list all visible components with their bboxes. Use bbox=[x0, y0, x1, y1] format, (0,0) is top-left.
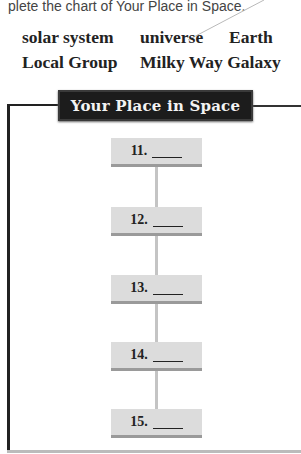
answer-blank[interactable] bbox=[153, 416, 183, 429]
answer-blank[interactable] bbox=[152, 145, 182, 158]
chart-node-15: 15. bbox=[111, 409, 202, 438]
node-number: 12. bbox=[130, 212, 148, 228]
word-bank-item: Milky Way Galaxy bbox=[140, 54, 281, 72]
answer-blank[interactable] bbox=[153, 349, 183, 362]
chart-node-11: 11. bbox=[111, 138, 202, 167]
connector-line bbox=[155, 371, 158, 409]
connector-line bbox=[155, 167, 158, 207]
connector-line bbox=[155, 236, 158, 276]
frame-bottom-border bbox=[7, 450, 301, 453]
frame-left-border bbox=[7, 104, 10, 453]
chart-title: Your Place in Space bbox=[58, 90, 253, 121]
chart-node-14: 14. bbox=[111, 342, 202, 371]
word-bank-item: universe bbox=[140, 29, 203, 47]
node-number: 15. bbox=[130, 414, 148, 430]
word-bank-item: Local Group bbox=[22, 54, 117, 72]
frame-top-left-border bbox=[7, 104, 59, 106]
chart-node-12: 12. bbox=[111, 207, 202, 236]
answer-blank[interactable] bbox=[153, 214, 183, 227]
answer-blank[interactable] bbox=[153, 282, 183, 295]
connector-line bbox=[155, 304, 158, 342]
node-number: 13. bbox=[130, 280, 148, 296]
chart-node-13: 13. bbox=[111, 275, 202, 304]
word-bank-item: solar system bbox=[22, 29, 114, 47]
word-bank-item: Earth bbox=[229, 29, 273, 47]
node-number: 11. bbox=[131, 143, 148, 159]
node-number: 14. bbox=[130, 347, 148, 363]
frame-top-right-border bbox=[253, 105, 301, 107]
